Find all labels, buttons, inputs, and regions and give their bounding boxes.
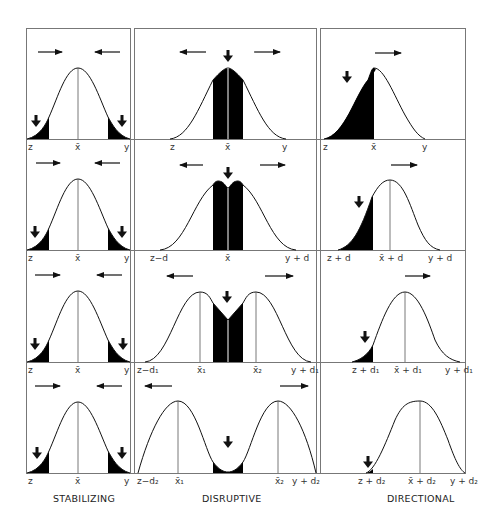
svg-text:z−d₁: z−d₁ <box>137 365 159 375</box>
disruptive-panel-4 <box>138 386 316 473</box>
down-arrow-icon <box>360 331 370 343</box>
down-arrow-icon <box>117 115 127 127</box>
svg-text:z: z <box>323 142 328 152</box>
stabilizing-panel-2 <box>27 163 130 250</box>
disruptive-panel-3 <box>145 276 311 362</box>
svg-text:x̄: x̄ <box>75 365 81 375</box>
svg-text:z: z <box>28 253 33 263</box>
svg-text:z: z <box>28 476 33 486</box>
svg-text:z: z <box>170 142 175 152</box>
svg-text:z: z <box>28 365 33 375</box>
svg-text:x̄₂: x̄₂ <box>275 476 284 486</box>
svg-text:x̄₁: x̄₁ <box>175 476 184 486</box>
svg-text:x̄: x̄ <box>225 253 231 263</box>
svg-text:z + d: z + d <box>327 253 351 263</box>
down-arrow-icon <box>32 447 42 459</box>
svg-text:y: y <box>422 142 428 152</box>
svg-text:z−d₂: z−d₂ <box>137 476 159 486</box>
down-arrow-icon <box>117 447 127 459</box>
down-arrow-icon <box>222 291 232 303</box>
down-arrow-icon <box>354 196 364 208</box>
stabilizing-panel-1 <box>27 52 130 139</box>
directional-panel-2 <box>338 165 440 250</box>
title-directional: DIRECTIONAL <box>387 493 455 504</box>
svg-text:y: y <box>124 476 130 486</box>
column-titles: STABILIZING DISRUPTIVE DIRECTIONAL <box>53 493 455 504</box>
directional-panel-3 <box>352 276 460 362</box>
disruptive-panel-1 <box>170 50 286 139</box>
svg-text:z + d₁: z + d₁ <box>352 365 380 375</box>
svg-text:x̄: x̄ <box>371 142 377 152</box>
down-arrow-icon <box>117 226 127 238</box>
directional-column <box>252 53 465 473</box>
stabilizing-panel-4 <box>27 386 130 473</box>
down-arrow-icon <box>223 167 233 179</box>
svg-text:y + d₂: y + d₂ <box>450 476 478 486</box>
svg-text:x̄ + d: x̄ + d <box>379 253 403 263</box>
row-baselines <box>26 140 466 474</box>
down-arrow-icon <box>118 338 128 350</box>
down-arrow-icon <box>30 226 40 238</box>
svg-text:z: z <box>28 142 33 152</box>
svg-text:y + d₁: y + d₁ <box>291 365 319 375</box>
svg-text:x̄: x̄ <box>75 142 81 152</box>
svg-text:y + d: y + d <box>428 253 452 263</box>
svg-text:z + d₂: z + d₂ <box>358 476 386 486</box>
svg-text:x̄₁: x̄₁ <box>197 365 206 375</box>
directional-panel-1 <box>252 53 425 139</box>
svg-text:y: y <box>124 365 130 375</box>
svg-text:y: y <box>124 253 130 263</box>
title-stabilizing: STABILIZING <box>53 493 115 504</box>
svg-text:y: y <box>124 142 130 152</box>
disruptive-panel-2 <box>160 165 296 250</box>
down-arrow-icon <box>363 456 373 468</box>
svg-text:x̄: x̄ <box>75 476 81 486</box>
svg-text:y: y <box>282 142 288 152</box>
selection-types-figure: z x̄ y z x̄ y z x̄ y z x̄ y z x̄ y z−d x… <box>0 0 496 530</box>
svg-text:x̄ + d₁: x̄ + d₁ <box>394 365 422 375</box>
stabilizing-column <box>27 16 130 473</box>
axis-labels: z x̄ y z x̄ y z x̄ y z x̄ y z x̄ y z−d x… <box>28 142 478 486</box>
svg-text:x̄: x̄ <box>75 253 81 263</box>
down-arrow-icon <box>30 338 40 350</box>
svg-text:y + d₂: y + d₂ <box>292 476 320 486</box>
down-arrow-icon <box>223 50 233 62</box>
svg-text:x̄ + d₂: x̄ + d₂ <box>408 476 436 486</box>
down-arrow-icon <box>342 71 352 83</box>
svg-text:y + d₁: y + d₁ <box>445 365 473 375</box>
svg-text:y + d: y + d <box>285 253 309 263</box>
down-arrow-icon <box>223 436 233 448</box>
svg-text:z−d: z−d <box>150 253 168 263</box>
svg-text:x̄₂: x̄₂ <box>253 365 262 375</box>
title-disruptive: DISRUPTIVE <box>202 493 262 504</box>
directional-panel-4 <box>363 401 465 473</box>
down-arrow-icon <box>31 115 41 127</box>
svg-text:x̄: x̄ <box>225 142 231 152</box>
